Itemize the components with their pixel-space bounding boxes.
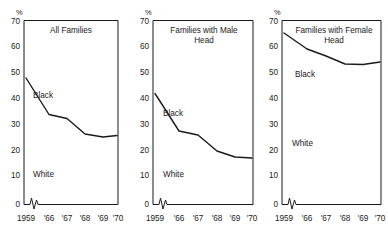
x-tick-69: '69	[358, 214, 369, 223]
series-label-black: Black	[295, 70, 316, 79]
panel-svg-all-families: % 70 60 50 40 30 20 10 0 Black White All…	[0, 0, 130, 240]
y-tick-30: 30	[269, 120, 279, 129]
x-tick-68: '68	[212, 214, 223, 223]
y-tick-50: 50	[269, 68, 279, 77]
x-tick-69: '69	[230, 214, 241, 223]
x-tick-67: '67	[62, 214, 73, 223]
y-tick-70: 70	[140, 17, 150, 26]
data-line-black	[155, 94, 252, 159]
y-tick-20: 20	[11, 146, 21, 155]
y-tick-20: 20	[269, 146, 279, 155]
y-tick-60: 60	[11, 42, 21, 51]
y-tick-70: 70	[11, 17, 21, 26]
y-tick-30: 30	[140, 120, 150, 129]
chart-panel-male-head: % 70 60 50 40 30 20 10 0 Black White Fam…	[130, 0, 259, 240]
x-tick-70: '70	[247, 214, 258, 223]
y-tick-30: 30	[11, 120, 21, 129]
y-tick-40: 40	[11, 94, 21, 103]
panel-title-line2: Head	[194, 36, 214, 45]
x-tick-66: '66	[302, 214, 313, 223]
series-label-black: Black	[163, 109, 184, 118]
chart-panel-all-families: % 70 60 50 40 30 20 10 0 Black White All…	[0, 0, 130, 240]
x-tick-66: '66	[174, 214, 185, 223]
series-label-black: Black	[33, 91, 54, 100]
y-tick-10: 10	[140, 171, 150, 180]
panel-svg-female-head: % 70 60 50 40 30 20 10 0 Black White Fam…	[259, 0, 388, 240]
x-tick-69: '69	[98, 214, 109, 223]
panel-title-line2: Head	[324, 36, 344, 45]
y-tick-40: 40	[269, 94, 279, 103]
y-tick-0: 0	[273, 200, 278, 209]
y-tick-0: 0	[144, 200, 149, 209]
y-tick-50: 50	[11, 68, 21, 77]
panel-svg-male-head: % 70 60 50 40 30 20 10 0 Black White Fam…	[130, 0, 259, 240]
x-tick-68: '68	[340, 214, 351, 223]
y-tick-70: 70	[269, 17, 279, 26]
panel-title-line1: Families with Female	[296, 26, 373, 35]
x-tick-66: '66	[44, 214, 55, 223]
y-tick-10: 10	[11, 171, 21, 180]
y-tick-60: 60	[140, 42, 150, 51]
panel-title-line1: Families with Male	[170, 26, 238, 35]
three-panel-chart-figure: % 70 60 50 40 30 20 10 0 Black White All…	[0, 0, 388, 240]
x-tick-1959: 1959	[275, 214, 294, 223]
series-label-white: White	[33, 170, 54, 179]
chart-panel-female-head: % 70 60 50 40 30 20 10 0 Black White Fam…	[259, 0, 388, 240]
y-tick-50: 50	[140, 68, 150, 77]
x-tick-70: '70	[375, 214, 386, 223]
series-label-white: White	[163, 170, 184, 179]
y-tick-60: 60	[269, 42, 279, 51]
x-tick-67: '67	[193, 214, 204, 223]
panel-title-line1: All Families	[50, 26, 92, 35]
y-tick-0: 0	[15, 200, 20, 209]
x-tick-67: '67	[321, 214, 332, 223]
x-tick-1959: 1959	[146, 214, 165, 223]
data-line-black	[26, 78, 117, 137]
x-tick-1959: 1959	[17, 214, 36, 223]
y-tick-20: 20	[140, 146, 150, 155]
x-tick-68: '68	[80, 214, 91, 223]
x-tick-70: '70	[113, 214, 124, 223]
y-tick-40: 40	[140, 94, 150, 103]
y-tick-10: 10	[269, 171, 279, 180]
series-label-white: White	[292, 139, 313, 148]
